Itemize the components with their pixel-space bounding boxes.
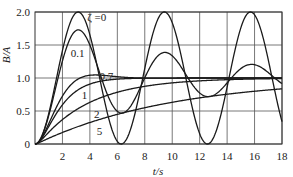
curve-label: 2 (94, 108, 100, 120)
x-tick-label: 2 (60, 150, 66, 162)
curve-zeta-5 (35, 89, 282, 144)
curve-label: 5 (97, 125, 103, 137)
x-tick-label: 16 (249, 150, 261, 162)
y-axis-ticks: 00.51.01.52.0 (16, 6, 30, 150)
x-axis-ticks: 24681012141618 (60, 150, 288, 162)
step-response-chart: ζ =00.10.7125 24681012141618 00.51.01.52… (0, 0, 293, 177)
y-tick-label: 0 (25, 138, 31, 150)
curve-label: ζ =0 (87, 11, 107, 24)
curve-label: 1 (82, 89, 88, 101)
x-tick-label: 8 (142, 150, 148, 162)
y-tick-label: 0.5 (16, 105, 30, 117)
y-tick-label: 1.0 (16, 72, 30, 84)
x-tick-label: 18 (277, 150, 289, 162)
x-tick-label: 14 (222, 150, 234, 162)
y-tick-label: 2.0 (16, 6, 30, 18)
x-tick-label: 12 (194, 150, 205, 162)
x-tick-label: 6 (115, 150, 121, 162)
y-axis-label: B/A (0, 46, 12, 63)
curve-label: 0.1 (71, 47, 85, 59)
curve-zeta-0-7 (35, 75, 282, 144)
x-axis-label: t/s (153, 165, 163, 177)
x-tick-label: 4 (87, 150, 93, 162)
x-tick-label: 10 (167, 150, 179, 162)
curve-label: 0.7 (99, 70, 113, 82)
y-tick-label: 1.5 (16, 39, 30, 51)
